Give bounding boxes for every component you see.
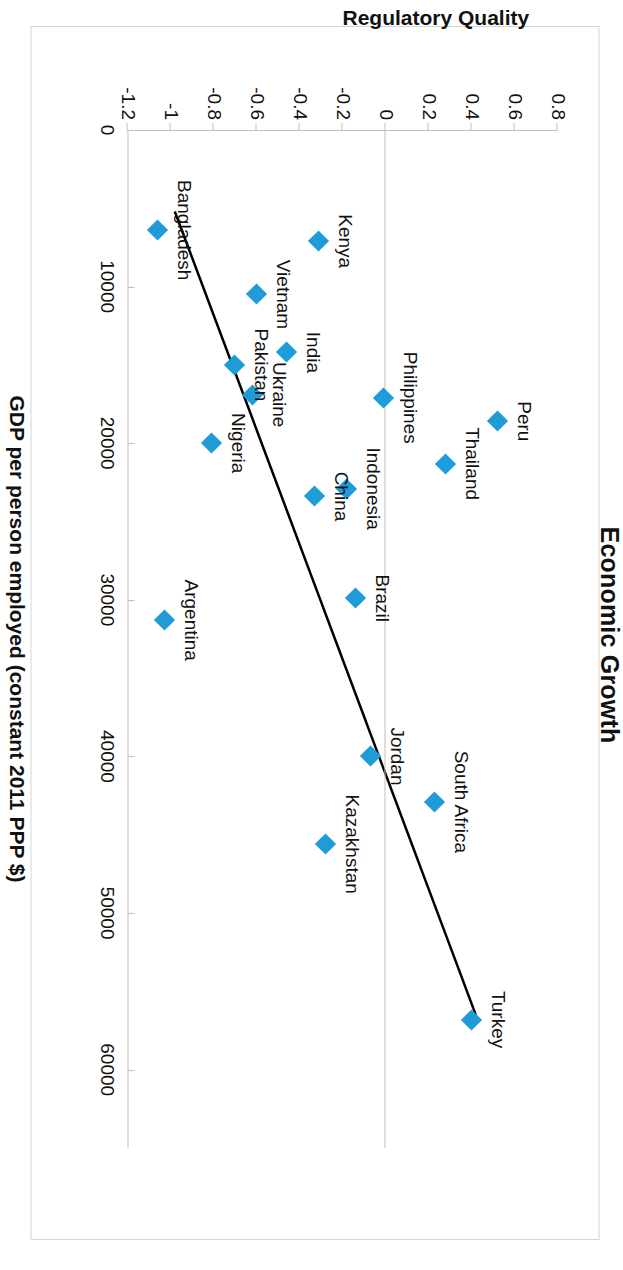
data-point-label: China — [329, 472, 351, 522]
zero-reference-line — [384, 130, 385, 1148]
data-point-label: Pakistan — [250, 328, 272, 401]
x-axis-tick-label: 30000 — [95, 573, 117, 626]
plot-area: 01000020000300004000050000600000.80.60.4… — [127, 130, 557, 1148]
y-axis-tick-label: -0.4 — [288, 87, 310, 120]
y-axis-title: Regulatory Quality — [342, 6, 529, 30]
x-axis-tick-label: 10000 — [95, 260, 117, 313]
y-axis-tick-label: 0.8 — [546, 94, 568, 120]
data-point-label: Peru — [512, 401, 534, 441]
data-point-label: Argentina — [179, 580, 201, 661]
y-axis-tick — [513, 123, 514, 130]
x-axis-tick-label: 20000 — [95, 417, 117, 470]
chart-title: Economic Growth — [594, 0, 623, 1270]
data-point-label: Philippines — [398, 352, 420, 444]
data-point-label: Turkey — [486, 991, 508, 1048]
y-axis-tick — [255, 123, 256, 130]
x-axis-tick — [127, 1070, 134, 1071]
y-axis-tick-label: -0.8 — [202, 87, 224, 120]
data-point-label: Jordan — [385, 727, 407, 785]
x-axis-tick-label: 50000 — [95, 887, 117, 940]
x-axis-title: GDP per person employed (constant 2011 P… — [4, 130, 28, 1148]
data-point-label: Vietnam — [271, 260, 293, 329]
y-axis-tick — [556, 123, 557, 130]
y-axis-tick-label: 0 — [374, 109, 396, 120]
x-axis-tick — [127, 600, 134, 601]
data-point-label: Brazil — [370, 575, 392, 623]
data-point-label: Indonesia — [361, 447, 383, 529]
y-axis-tick — [470, 123, 471, 130]
data-point-label: Nigeria — [226, 413, 248, 473]
y-axis-tick — [427, 123, 428, 130]
y-axis-tick-label: 0.2 — [417, 94, 439, 120]
x-axis-tick — [127, 443, 134, 444]
y-axis-tick-label: -0.6 — [245, 87, 267, 120]
y-axis-tick-label: 0.6 — [503, 94, 525, 120]
data-point-label: Kazakhstan — [340, 795, 362, 894]
x-axis-tick-label: 40000 — [95, 730, 117, 783]
x-axis-tick-label: 60000 — [95, 1043, 117, 1096]
data-point-label: Kenya — [333, 214, 355, 268]
x-axis-tick — [127, 756, 134, 757]
y-axis-tick — [169, 123, 170, 130]
y-axis-tick — [341, 123, 342, 130]
data-point-label: India — [301, 332, 323, 373]
x-axis-tick-label: 0 — [95, 125, 117, 136]
y-axis-tick — [384, 123, 385, 130]
y-axis-tick-label: -1.2 — [116, 87, 138, 120]
y-axis-tick — [212, 123, 213, 130]
data-point-label: Bangladesh — [172, 180, 194, 280]
x-axis-tick — [127, 913, 134, 914]
y-axis-tick — [298, 123, 299, 130]
y-axis-tick — [126, 123, 127, 130]
y-axis-tick-label: -0.2 — [331, 87, 353, 120]
data-point-label: Thailand — [460, 427, 482, 500]
x-axis-tick — [127, 130, 134, 131]
y-axis-tick-label: -1 — [159, 103, 181, 120]
y-axis-tick-label: 0.4 — [460, 94, 482, 120]
data-point-label: South Africa — [449, 751, 471, 853]
x-axis-tick — [127, 287, 134, 288]
